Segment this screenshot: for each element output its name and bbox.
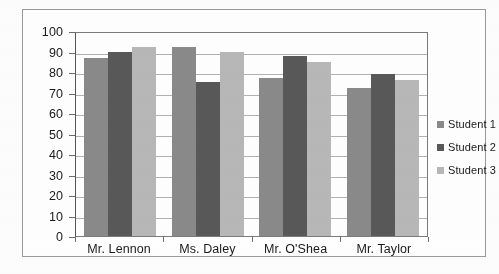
- y-axis: 1009080706050403020100: [23, 32, 71, 237]
- bar: [220, 52, 244, 237]
- y-axis-tick-label: 30: [49, 169, 63, 182]
- bar: [172, 47, 196, 236]
- legend-item: Student 2: [437, 141, 499, 153]
- bar: [259, 78, 283, 236]
- x-axis-tick-mark: [428, 237, 429, 242]
- bar: [395, 80, 419, 236]
- legend-item-label: Student 3: [448, 164, 496, 176]
- bar-group: [252, 33, 340, 236]
- y-axis-tick-label: 90: [49, 46, 63, 59]
- y-axis-tick-label: 100: [42, 26, 63, 39]
- x-axis-tick-mark: [252, 237, 253, 242]
- legend-swatch-icon: [437, 144, 444, 151]
- legend-item-label: Student 1: [448, 118, 496, 130]
- x-axis-tick-label: Mr. O'Shea: [252, 242, 340, 256]
- y-axis-tick-label: 80: [49, 67, 63, 80]
- bar: [196, 82, 220, 236]
- legend-item-label: Student 2: [448, 141, 496, 153]
- bar: [108, 52, 132, 237]
- chart-figure: 1009080706050403020100 Mr. LennonMs. Dal…: [0, 0, 499, 274]
- x-axis-tick-mark: [75, 237, 76, 242]
- bar-group: [76, 33, 164, 236]
- plot-area: [75, 32, 428, 237]
- x-axis-tick-label: Mr. Lennon: [75, 242, 163, 256]
- y-axis-tick-label: 40: [49, 149, 63, 162]
- y-axis-tick-label: 10: [49, 210, 63, 223]
- x-axis-tick-mark: [163, 237, 164, 242]
- bar-group: [339, 33, 427, 236]
- legend-item: Student 1: [437, 118, 499, 130]
- bar-group: [164, 33, 252, 236]
- bar: [347, 88, 371, 236]
- y-axis-tick-label: 70: [49, 87, 63, 100]
- bar: [84, 58, 108, 236]
- legend-swatch-icon: [437, 121, 444, 128]
- bar: [132, 47, 156, 236]
- y-axis-tick-label: 50: [49, 128, 63, 141]
- x-axis-tick-label: Ms. Daley: [163, 242, 251, 256]
- bar: [307, 62, 331, 236]
- legend-item: Student 3: [437, 164, 499, 176]
- y-axis-tick-label: 60: [49, 108, 63, 121]
- x-axis-tick-label: Mr. Taylor: [340, 242, 428, 256]
- x-axis-tick-mark: [340, 237, 341, 242]
- legend-swatch-icon: [437, 167, 444, 174]
- bar-groups: [76, 33, 427, 236]
- bar: [371, 74, 395, 236]
- chart-frame-border: 1009080706050403020100 Mr. LennonMs. Dal…: [22, 9, 486, 257]
- chart-legend: Student 1Student 2Student 3: [437, 118, 499, 187]
- x-axis: Mr. LennonMs. DaleyMr. O'SheaMr. Taylor: [75, 242, 428, 256]
- bar: [283, 56, 307, 236]
- y-axis-tick-label: 0: [56, 231, 63, 244]
- y-axis-tick-label: 20: [49, 190, 63, 203]
